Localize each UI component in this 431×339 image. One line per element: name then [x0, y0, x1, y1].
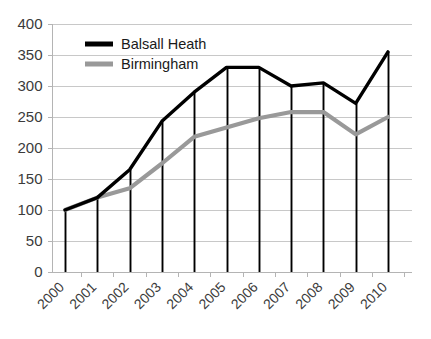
x-tick-label-2008: 2008 — [292, 279, 325, 312]
chart-canvas: 050100150200250300350400 200020012002200… — [0, 0, 431, 339]
legend-label-balsall-heath: Balsall Heath — [121, 36, 206, 52]
series-line-birmingham — [65, 112, 388, 210]
y-tick-marks — [48, 25, 53, 273]
x-axis-group: 2000200120022003200420052006200720082009… — [34, 272, 412, 312]
y-tick-label-0: 0 — [34, 263, 42, 280]
x-tick-label-2006: 2006 — [228, 279, 261, 312]
x-tick-label-2005: 2005 — [195, 279, 228, 312]
y-tick-label-300: 300 — [17, 77, 42, 94]
y-tick-label-50: 50 — [26, 232, 43, 249]
x-tick-labels: 2000200120022003200420052006200720082009… — [34, 279, 390, 312]
y-tick-label-150: 150 — [17, 170, 42, 187]
y-tick-labels: 050100150200250300350400 — [17, 15, 42, 280]
x-tick-label-2009: 2009 — [324, 279, 357, 312]
y-axis-group: 050100150200250300350400 — [17, 15, 52, 280]
legend-label-birmingham: Birmingham — [121, 56, 198, 72]
line-chart: 050100150200250300350400 200020012002200… — [0, 0, 431, 339]
legend: Balsall HeathBirmingham — [85, 36, 206, 72]
x-tick-label-2007: 2007 — [260, 279, 293, 312]
x-tick-label-2010: 2010 — [357, 279, 390, 312]
y-tick-label-350: 350 — [17, 46, 42, 63]
x-tick-label-2003: 2003 — [131, 279, 164, 312]
x-tick-label-2004: 2004 — [163, 279, 196, 312]
drop-lines-group — [66, 52, 389, 272]
y-tick-label-100: 100 — [17, 201, 42, 218]
series-group — [65, 52, 388, 210]
x-tick-label-2001: 2001 — [66, 279, 99, 312]
y-tick-label-400: 400 — [17, 15, 42, 32]
x-tick-label-2000: 2000 — [34, 279, 67, 312]
y-tick-label-250: 250 — [17, 108, 42, 125]
x-tick-label-2002: 2002 — [98, 279, 131, 312]
y-tick-label-200: 200 — [17, 139, 42, 156]
series-line-balsall-heath — [65, 52, 388, 210]
